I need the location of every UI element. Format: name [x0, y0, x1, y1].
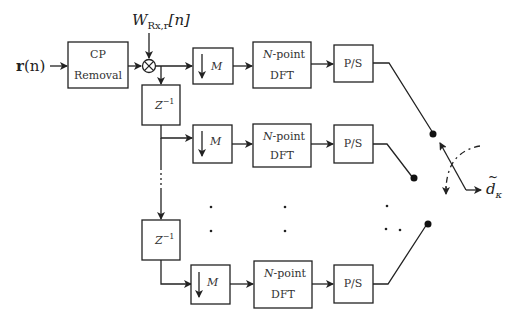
branch2-output-line — [373, 144, 413, 178]
cp-removal-block: CP Removal — [68, 42, 128, 88]
ofdm-receiver-diagram: r(n) CP Removal WRx,r[n] M N-point DFT P… — [0, 0, 524, 321]
branchN-dft-block: N-point DFT — [254, 261, 312, 308]
branch2-dft-block: N-point DFT — [253, 124, 311, 167]
branch1-downsample-block: M — [193, 48, 233, 84]
output-tilde: ~ — [488, 170, 498, 184]
svg-text:M: M — [209, 135, 222, 148]
svg-text:CP: CP — [90, 48, 106, 61]
svg-text:N-point: N-point — [262, 130, 306, 143]
svg-text:M: M — [206, 276, 219, 289]
branch2-ps-block: P/S — [334, 125, 373, 163]
branch1-ps-block: P/S — [334, 45, 373, 82]
branchN-downsample-block: M — [191, 265, 230, 304]
branchN-output-line — [373, 224, 427, 284]
delayN-block: Z−1 — [142, 220, 180, 260]
branch1-dft-block: N-point DFT — [253, 42, 311, 88]
delay1-block: Z−1 — [142, 85, 180, 125]
svg-text:P/S: P/S — [344, 277, 363, 290]
svg-text:DFT: DFT — [271, 288, 295, 301]
branch2-downsample-block: M — [193, 125, 232, 163]
svg-text:P/S: P/S — [344, 57, 363, 70]
input-label: r(n) — [16, 57, 45, 75]
switch-contact-1 — [430, 131, 437, 138]
branch1-output-line — [373, 63, 433, 133]
weight-label: WRx,r[n] — [132, 11, 190, 31]
svg-text:DFT: DFT — [270, 149, 294, 162]
switch-arm — [440, 143, 466, 190]
svg-text:N-point: N-point — [262, 48, 306, 61]
svg-text:N-point: N-point — [263, 267, 307, 280]
svg-text:P/S: P/S — [344, 137, 363, 150]
ellipsis-dots — [210, 205, 402, 233]
switch-contact-N — [425, 221, 432, 228]
branchN-ps-block: P/S — [334, 265, 373, 303]
svg-text:DFT: DFT — [270, 69, 294, 82]
multiplier-icon — [143, 60, 156, 73]
switch-contact-2 — [411, 175, 418, 182]
branchN-arrow — [161, 260, 191, 284]
branch2-arrow — [161, 125, 192, 138]
svg-text:Removal: Removal — [74, 69, 123, 82]
svg-text:M: M — [210, 60, 223, 73]
